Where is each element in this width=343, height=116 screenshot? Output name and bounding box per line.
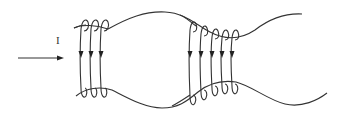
coil-loop <box>230 30 239 94</box>
right-coil-group <box>188 22 239 105</box>
coil-loop <box>210 29 219 96</box>
current-direction-arrow <box>18 56 64 61</box>
coil-loop <box>99 20 109 97</box>
coil-loop <box>188 22 197 105</box>
left-coil-group <box>79 20 109 97</box>
current-label: I <box>56 34 60 46</box>
upper-field-line-right-start <box>180 15 196 26</box>
coil-loop <box>89 20 99 97</box>
coil-loop <box>220 30 229 94</box>
coil-loop <box>79 20 89 97</box>
magnetic-bottle-diagram: I <box>0 0 343 116</box>
